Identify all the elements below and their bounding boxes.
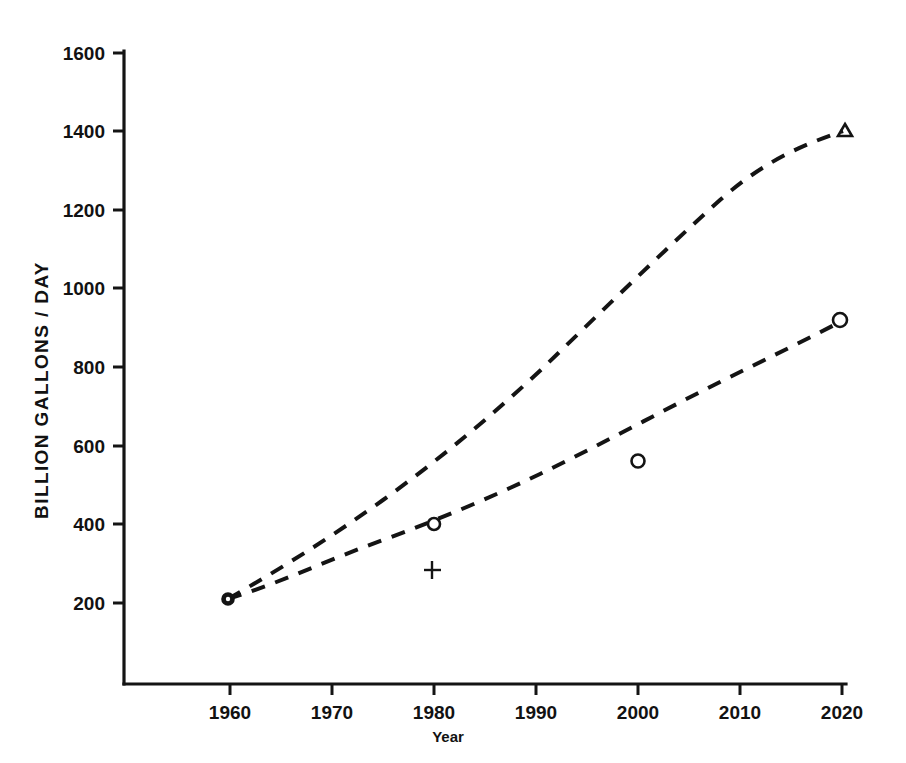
x-tick-label: 1990 — [515, 702, 557, 723]
y-tick-label: 1000 — [63, 278, 105, 299]
chart-background — [0, 0, 906, 763]
y-tick-label: 200 — [73, 593, 105, 614]
chart-svg: 1600 1400 1200 1000 800 600 400 200 1960… — [0, 0, 906, 763]
y-tick-label: 1200 — [63, 200, 105, 221]
y-axis-title: BILLION GALLONS / DAY — [31, 261, 52, 519]
y-tick-label: 400 — [73, 514, 105, 535]
x-tick-label: 2020 — [821, 702, 863, 723]
x-tick-label: 1980 — [413, 702, 455, 723]
y-tick-label: 800 — [73, 357, 105, 378]
x-tick-label: 2000 — [617, 702, 659, 723]
y-tick-label: 1600 — [63, 43, 105, 64]
y-tick-label: 600 — [73, 436, 105, 457]
marker-origin-point-inner — [226, 597, 230, 601]
x-tick-label: 1970 — [311, 702, 353, 723]
x-tick-label: 1960 — [209, 702, 251, 723]
x-axis-title: Year — [432, 728, 464, 745]
chart-figure: 1600 1400 1200 1000 800 600 400 200 1960… — [0, 0, 906, 763]
y-tick-label: 1400 — [63, 121, 105, 142]
x-tick-label: 2010 — [719, 702, 761, 723]
